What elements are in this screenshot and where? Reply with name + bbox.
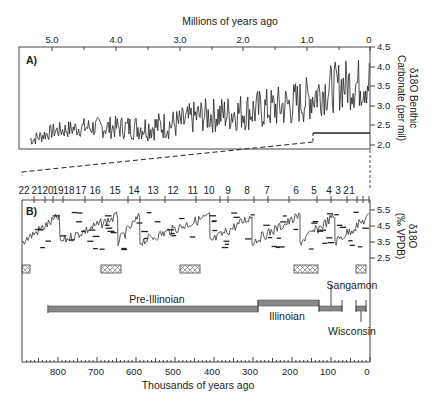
tick-label: 2.5 bbox=[377, 119, 390, 130]
tick-label: 2.0 bbox=[377, 139, 390, 150]
tick-label: 400 bbox=[204, 366, 220, 377]
tick-label: 3.5 bbox=[377, 80, 390, 91]
panel-a-right-ticks bbox=[370, 47, 375, 145]
mis-label: 3 bbox=[335, 185, 341, 196]
ylabel-line1: δ18O Benthic bbox=[408, 68, 419, 129]
tick-label: 0 bbox=[366, 34, 371, 45]
tick-label: 800 bbox=[50, 366, 66, 377]
tick-label: 3.5 bbox=[377, 236, 390, 247]
panel-b-label: B) bbox=[26, 205, 37, 217]
mis-label: 6 bbox=[293, 185, 299, 196]
tick-label: 100 bbox=[320, 366, 336, 377]
bar-wisconsin bbox=[356, 306, 366, 311]
tick-label: 2.5 bbox=[377, 252, 390, 263]
tick-label: 2.0 bbox=[236, 34, 249, 45]
panel-a-top-ticks bbox=[52, 47, 370, 51]
tick-label: 5.0 bbox=[45, 34, 58, 45]
tick-label: 600 bbox=[126, 366, 142, 377]
mis-label: 16 bbox=[89, 185, 101, 196]
bar-pre-illinoian bbox=[48, 306, 258, 312]
tick-label: 4.5 bbox=[377, 220, 390, 231]
label-illinoian: Illinoian bbox=[269, 310, 305, 322]
mis-label: 11 bbox=[188, 185, 199, 196]
tick-label: 3.0 bbox=[173, 34, 186, 45]
tick-label: 700 bbox=[88, 366, 104, 377]
hatched-box bbox=[180, 265, 200, 273]
panel-b-xlabel: Thousands of years ago bbox=[142, 379, 255, 391]
hatched-box bbox=[101, 265, 121, 273]
panel-b: 22212019181716151413121110987654321 B) 5… bbox=[18, 185, 418, 391]
tick-label: 500 bbox=[165, 366, 181, 377]
mis-label: 18 bbox=[63, 185, 75, 196]
tick-label: 300 bbox=[242, 366, 258, 377]
tick-label: 0 bbox=[364, 366, 369, 377]
zoom-connector-left bbox=[22, 142, 313, 176]
mis-label: 15 bbox=[109, 185, 121, 196]
mis-label: 22 bbox=[18, 185, 30, 196]
label-pre-illinoian: Pre-Illinoian bbox=[129, 293, 185, 305]
tick-label: 4.5 bbox=[377, 41, 390, 52]
mis-label: 5 bbox=[311, 185, 317, 196]
mis-label: 12 bbox=[167, 185, 179, 196]
panel-b-ylabel: δ18O (‰ VPDB) bbox=[395, 213, 418, 260]
ylabel-line2: (‰ VPDB) bbox=[395, 213, 406, 260]
mis-label: 17 bbox=[75, 185, 87, 196]
panel-a: Millions of years ago A) 5.0 4.0 3.0 2.0… bbox=[19, 15, 419, 190]
hatched-box bbox=[22, 265, 30, 273]
mis-label: 9 bbox=[225, 185, 231, 196]
marine-isotope-stage-labels: 22212019181716151413121110987654321 bbox=[18, 185, 355, 196]
panel-a-label: A) bbox=[26, 54, 37, 66]
glaciation-bars: Pre-Illinoian Illinoian Sangamon Wiscons… bbox=[48, 279, 378, 337]
ylabel-line2: Carbonate (per mil) bbox=[396, 55, 407, 141]
mis-label: 8 bbox=[244, 185, 250, 196]
panel-a-y-tick-labels: 4.5 4.0 3.5 3.0 2.5 2.0 bbox=[377, 41, 390, 150]
mis-label: 7 bbox=[264, 185, 270, 196]
tick-label: 200 bbox=[282, 366, 298, 377]
bar-illinoian bbox=[258, 300, 319, 306]
panel-a-xlabel: Millions of years ago bbox=[182, 15, 278, 27]
tick-label: 4.0 bbox=[109, 34, 122, 45]
chart-figure: Millions of years ago A) 5.0 4.0 3.0 2.0… bbox=[0, 0, 438, 396]
label-wisconsin: Wisconsin bbox=[328, 325, 376, 337]
label-sangamon: Sangamon bbox=[327, 279, 378, 291]
tick-label: 1.0 bbox=[300, 34, 313, 45]
mis-label: 1 bbox=[349, 185, 355, 196]
mis-label: 19 bbox=[52, 185, 64, 196]
tick-label: 3.0 bbox=[377, 100, 390, 111]
tick-label: 5.5 bbox=[377, 204, 390, 215]
panel-b-bottom-ticks bbox=[27, 357, 370, 362]
panel-b-x-tick-labels: 800 700 600 500 400 300 200 100 0 bbox=[50, 366, 370, 377]
hatched-boxes bbox=[22, 265, 366, 273]
tick-label: 4.0 bbox=[377, 61, 390, 72]
mis-label: 14 bbox=[128, 185, 140, 196]
mis-label: 4 bbox=[326, 185, 332, 196]
mis-label: 13 bbox=[147, 185, 159, 196]
ylabel-line1: δ18O bbox=[407, 224, 418, 249]
bar-sangamon-period bbox=[319, 306, 342, 311]
panel-b-right-ticks bbox=[370, 210, 375, 258]
hatched-box bbox=[356, 265, 366, 273]
panel-a-x-tick-labels: 5.0 4.0 3.0 2.0 1.0 0 bbox=[45, 34, 371, 45]
panel-b-y-tick-labels: 5.5 4.5 3.5 2.5 bbox=[377, 204, 390, 263]
mis-label: 10 bbox=[203, 185, 215, 196]
mis-label: 21 bbox=[31, 185, 43, 196]
panel-a-series-line bbox=[30, 60, 369, 144]
hatched-box bbox=[294, 265, 318, 273]
panel-a-ylabel: δ18O Benthic Carbonate (per mil) bbox=[396, 55, 419, 141]
